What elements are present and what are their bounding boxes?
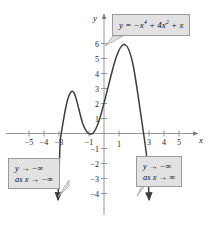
equation-term2-exponent: 2 (166, 19, 169, 25)
right-line2-value: ∞ (169, 172, 175, 182)
left-line1-value: −∞ (32, 163, 44, 173)
x-tick-label: 4 (162, 138, 166, 147)
end-behavior-right-callout: y → −∞ as x → ∞ (136, 156, 182, 187)
equation-op2: + (171, 20, 177, 30)
right-line1-arrow-icon: → (149, 161, 158, 171)
equation-lhs: y (119, 20, 123, 30)
left-line2-variable: x (25, 174, 29, 184)
left-line2-prefix: as (15, 174, 23, 184)
y-tick-label: −2 (90, 160, 99, 169)
y-tick-label: −3 (90, 175, 99, 184)
y-axis-label: y (92, 13, 97, 23)
equation-term3: x (179, 20, 183, 30)
left-callout-line2: as x → −∞ (15, 174, 53, 185)
x-tick-label: 1 (117, 140, 121, 149)
y-tick-label: 1 (95, 115, 99, 124)
equation-term1: −x (134, 20, 144, 30)
x-tick-label: −4 (40, 138, 49, 147)
y-tick-label: 3 (95, 85, 99, 94)
x-tick-label: 3 (147, 138, 151, 147)
right-line1-variable: y (143, 161, 147, 171)
equation-callout: y = −x4 + 4x2 + x (112, 14, 190, 36)
y-tick-label: 2 (95, 100, 99, 109)
y-tick-label: 5 (95, 55, 99, 64)
y-tick-label: −1 (90, 145, 99, 154)
y-tick-label: 6 (95, 40, 99, 49)
equation-term2: 4x (157, 20, 166, 30)
right-line2-arrow-icon: → (159, 172, 168, 182)
equation-callout-tail (105, 36, 123, 46)
graph-figure: −5 −4 −3 −1 1 3 4 5 1 2 3 4 5 6 −1 −2 −3… (0, 0, 215, 226)
right-callout-line1: y → −∞ (143, 161, 175, 172)
y-tick-label: −4 (90, 190, 99, 199)
equation-op1: + (149, 20, 155, 30)
y-tick-label: 4 (95, 70, 99, 79)
x-tick-label: 5 (177, 138, 181, 147)
y-tick-labels: 1 2 3 4 5 6 −1 −2 −3 −4 (90, 40, 99, 199)
right-callout-line2: as x → ∞ (143, 172, 175, 183)
left-callout-line1: y → −∞ (15, 163, 53, 174)
equation-equals: = (125, 20, 131, 30)
x-tick-labels: −5 −4 −3 −1 1 3 4 5 (25, 138, 181, 149)
left-line1-variable: y (15, 163, 19, 173)
x-tick-label: −3 (55, 138, 64, 147)
right-line2-variable: x (153, 172, 157, 182)
x-axis (6, 131, 198, 137)
left-line2-arrow-icon: → (31, 174, 40, 184)
x-axis-label: x (198, 135, 203, 145)
left-line1-arrow-icon: → (21, 163, 30, 173)
right-line1-value: −∞ (160, 161, 172, 171)
x-tick-label: −5 (25, 138, 34, 147)
left-line2-value: −∞ (41, 174, 53, 184)
equation-term1-exponent: 4 (144, 19, 147, 25)
end-behavior-left-callout: y → −∞ as x → −∞ (8, 158, 60, 189)
right-line2-prefix: as (143, 172, 151, 182)
